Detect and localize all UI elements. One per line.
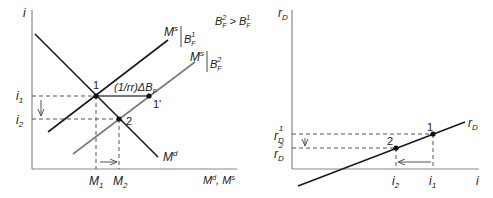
shift-label: (1/rr)ΔBF [114, 81, 158, 95]
point-1-prime [146, 93, 151, 98]
svg-text:Ms: Ms [164, 24, 178, 39]
tick-i2-right: i2 [392, 174, 400, 190]
ms1-label: Ms B1F [164, 24, 196, 47]
svg-text:B1F: B1F [184, 31, 196, 47]
md-label: Md [163, 149, 178, 164]
ms2-curve [73, 62, 195, 154]
money-market-diagram: i Md, Ms B2F>B1F 1 1' 2 (1/rr)ΔBF [0, 0, 493, 198]
point-1-prime-label: 1' [153, 98, 161, 110]
point-2 [116, 116, 121, 121]
left-y-axis-label: i [23, 6, 26, 20]
svg-text:Ms: Ms [190, 49, 204, 64]
tick-i2: i2 [16, 113, 24, 129]
condition-label: B2F>B1F [215, 14, 251, 29]
tick-rd2: rD2 [274, 141, 284, 163]
tick-m1: M1 [89, 174, 103, 190]
rd-point-2-label: 2 [387, 135, 393, 147]
rd-point-2 [393, 145, 398, 150]
point-1 [93, 93, 98, 98]
rd-curve-label: rD [468, 116, 478, 132]
tick-m2: M2 [113, 174, 128, 190]
left-guides [32, 96, 119, 169]
point-2-label: 2 [126, 115, 132, 127]
right-guides [292, 134, 433, 169]
right-panel: rD i 1 2 rD rD1 rD2 i2 i1 [274, 6, 479, 190]
tick-i1: i1 [16, 89, 23, 105]
rd-point-1-label: 1 [427, 121, 433, 133]
right-y-axis-label: rD [278, 6, 288, 22]
ms2-label: Ms B2F [190, 49, 222, 72]
svg-text:B2F: B2F [210, 56, 222, 72]
right-x-axis-label: i [476, 174, 479, 188]
left-panel: i Md, Ms B2F>B1F 1 1' 2 (1/rr)ΔBF [16, 6, 251, 190]
left-x-axis-label: Md, Ms [203, 174, 235, 186]
tick-i1-right: i1 [429, 174, 436, 190]
rd-curve [298, 122, 465, 186]
point-1-label: 1 [93, 79, 99, 91]
